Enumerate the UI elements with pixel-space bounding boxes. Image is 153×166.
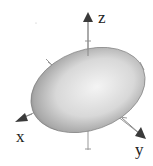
z-arrow-icon [83,12,93,22]
y-arrow-icon [135,127,146,139]
ellipsoid-surface [19,32,153,148]
x-arrow-icon [15,113,28,122]
z-axis-label: z [98,9,106,26]
x-axis-label: x [16,128,25,145]
y-axis-label: y [135,141,144,158]
